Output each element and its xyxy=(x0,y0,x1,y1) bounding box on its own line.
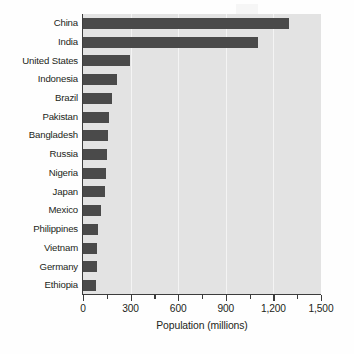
bar xyxy=(83,130,108,141)
y-axis-label-ethiopia: Ethiopia xyxy=(0,279,78,290)
y-axis-label-russia: Russia xyxy=(0,148,78,159)
y-axis-label-nigeria: Nigeria xyxy=(0,167,78,178)
y-axis-label-bangladesh: Bangladesh xyxy=(0,129,78,140)
x-tick-minor xyxy=(154,295,155,299)
y-axis-label-brazil: Brazil xyxy=(0,92,78,103)
y-axis-label-indonesia: Indonesia xyxy=(0,73,78,84)
x-tick-minor xyxy=(250,295,251,299)
gridline xyxy=(178,14,179,295)
bar xyxy=(83,37,258,48)
bar xyxy=(83,261,97,272)
x-tick-major xyxy=(131,295,132,301)
x-tick-label: 900 xyxy=(217,303,234,314)
x-tick-label: 0 xyxy=(80,303,86,314)
x-tick-major xyxy=(273,295,274,301)
y-axis-line xyxy=(82,14,83,295)
y-axis-label-germany: Germany xyxy=(0,261,78,272)
y-axis-label-pakistan: Pakistan xyxy=(0,111,78,122)
bar xyxy=(83,93,112,104)
y-axis-label-india: India xyxy=(0,36,78,47)
y-axis-label-china: China xyxy=(0,17,78,28)
x-tick-label: 1,500 xyxy=(309,303,334,314)
x-tick-label: 600 xyxy=(170,303,187,314)
bar xyxy=(83,186,105,197)
y-axis-label-vietnam: Vietnam xyxy=(0,242,78,253)
bar xyxy=(83,168,106,179)
bar xyxy=(83,112,109,123)
gridline xyxy=(131,14,132,295)
y-axis-label-philippines: Philippines xyxy=(0,223,78,234)
x-tick-minor xyxy=(107,295,108,299)
bar xyxy=(83,224,98,235)
bar xyxy=(83,243,97,254)
bar xyxy=(83,55,130,66)
gridline xyxy=(226,14,227,295)
x-tick-major xyxy=(83,295,84,301)
gridline xyxy=(273,14,274,295)
x-tick-minor xyxy=(297,295,298,299)
y-axis-label-japan: Japan xyxy=(0,186,78,197)
plot-area xyxy=(83,14,321,295)
x-axis-title: Population (millions) xyxy=(83,320,321,331)
x-tick-minor xyxy=(202,295,203,299)
bar xyxy=(83,280,96,291)
y-axis-label-mexico: Mexico xyxy=(0,204,78,215)
x-tick-label: 300 xyxy=(122,303,139,314)
x-tick-major xyxy=(178,295,179,301)
x-tick-major xyxy=(321,295,322,301)
bar xyxy=(83,149,107,160)
scan-artifact xyxy=(236,4,258,14)
bar xyxy=(83,18,289,29)
bar xyxy=(83,74,117,85)
x-tick-label: 1,200 xyxy=(261,303,286,314)
y-axis-label-united-states: United States xyxy=(0,55,78,66)
x-tick-major xyxy=(226,295,227,301)
population-bar-chart: ChinaIndiaUnited StatesIndonesiaBrazilPa… xyxy=(0,0,354,354)
bar xyxy=(83,205,101,216)
